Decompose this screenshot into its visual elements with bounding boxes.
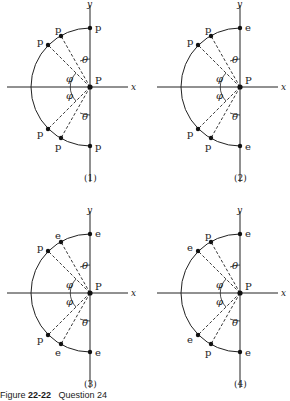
theta-label-top: θ bbox=[232, 54, 238, 65]
panel-label: (3) bbox=[84, 379, 97, 389]
theta-label-bottom: θ bbox=[82, 317, 88, 328]
x-axis-label: x bbox=[281, 82, 286, 92]
theta-label-bottom: θ bbox=[232, 111, 238, 122]
phi-label-top: φ bbox=[216, 73, 223, 84]
phi-label-bottom: φ bbox=[66, 296, 73, 307]
charge-top-axis: e bbox=[245, 22, 251, 33]
charge-top-outer: p bbox=[37, 242, 43, 253]
x-axis-label: x bbox=[131, 82, 136, 92]
y-axis-label: y bbox=[236, 205, 243, 215]
charge-bottom-axis: p bbox=[95, 141, 101, 152]
charge-top-outer: p bbox=[37, 36, 43, 47]
origin-label: P bbox=[95, 75, 102, 86]
caption-number: 22-22 bbox=[28, 390, 51, 400]
charge-top-inner: p bbox=[205, 24, 211, 35]
panel-label: (2) bbox=[234, 173, 247, 183]
charge-bottom-axis: e bbox=[95, 347, 101, 358]
phi-label-bottom: φ bbox=[216, 296, 223, 307]
charge-bottom-outer: p bbox=[37, 334, 43, 345]
y-axis-label: y bbox=[86, 205, 93, 215]
panel-label: (4) bbox=[234, 379, 247, 389]
panel-2: y x P θ θ φ φ e p p p p e (2) bbox=[157, 0, 286, 183]
theta-label-top: θ bbox=[82, 54, 88, 65]
theta-label-top: θ bbox=[82, 260, 88, 271]
origin-label: P bbox=[245, 75, 252, 86]
charge-bottom-axis: e bbox=[245, 141, 251, 152]
caption-suffix: Question 24 bbox=[59, 390, 108, 400]
theta-label-bottom: θ bbox=[82, 111, 88, 122]
theta-label-bottom: θ bbox=[232, 317, 238, 328]
charge-top-inner: e bbox=[55, 230, 61, 241]
theta-label-top: θ bbox=[232, 260, 238, 271]
charge-bottom-outer: p bbox=[187, 128, 193, 139]
figure-caption: Figure 22-22 Question 24 bbox=[0, 390, 107, 400]
phi-label-top: φ bbox=[66, 73, 73, 84]
charge-bottom-outer: e bbox=[187, 334, 193, 345]
charge-top-axis: e bbox=[95, 228, 101, 239]
panel-3: y x P θ θ φ φ e e p p e e (3) bbox=[7, 205, 136, 389]
charge-top-axis: p bbox=[95, 22, 101, 33]
charge-bottom-inner: p bbox=[55, 141, 61, 152]
charge-bottom-outer: p bbox=[37, 128, 43, 139]
charge-bottom-axis: e bbox=[245, 347, 251, 358]
origin-label: P bbox=[245, 281, 252, 292]
charge-top-axis: e bbox=[245, 228, 251, 239]
x-axis-label: x bbox=[281, 288, 286, 298]
panel-1: y x P θ θ φ φ p p p p p p (1) bbox=[7, 0, 136, 183]
x-axis-label: x bbox=[131, 288, 136, 298]
charge-top-outer: p bbox=[187, 36, 193, 47]
origin-label: P bbox=[95, 281, 102, 292]
phi-label-top: φ bbox=[66, 279, 73, 290]
phi-label-top: φ bbox=[216, 279, 223, 290]
y-axis-label: y bbox=[86, 0, 93, 9]
caption-prefix: Figure bbox=[0, 390, 26, 400]
charge-top-inner: p bbox=[205, 230, 211, 241]
charge-bottom-inner: p bbox=[205, 141, 211, 152]
charge-bottom-inner: p bbox=[205, 347, 211, 358]
phi-label-bottom: φ bbox=[216, 90, 223, 101]
panel-4: y x P θ θ φ φ e p e e p e (4) bbox=[157, 205, 286, 389]
charge-top-outer: e bbox=[187, 242, 193, 253]
phi-label-bottom: φ bbox=[66, 90, 73, 101]
charge-bottom-inner: e bbox=[55, 347, 61, 358]
y-axis-label: y bbox=[236, 0, 243, 9]
charge-top-inner: p bbox=[55, 24, 61, 35]
panel-label: (1) bbox=[84, 173, 97, 183]
figure-diagram: y x P θ θ φ φ p p p p p p (1) y x P θ θ … bbox=[0, 0, 290, 401]
